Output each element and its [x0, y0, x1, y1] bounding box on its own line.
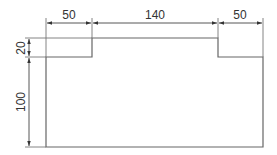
dim-label-left-50: 50: [62, 8, 76, 22]
dim-label-center-140: 140: [145, 8, 165, 22]
dim-label-right-50: 50: [233, 8, 247, 22]
part-outline: [46, 38, 263, 147]
vertical-extension-lines: [25, 38, 92, 147]
dim-label-height-100: 100: [14, 92, 28, 112]
dimensioned-drawing: 50 140 50 20 100: [0, 0, 277, 155]
dim-label-height-20: 20: [14, 41, 28, 55]
